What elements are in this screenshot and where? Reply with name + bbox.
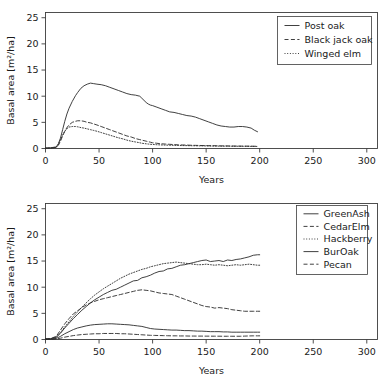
y-axis-label: Basal area [m²/ha] xyxy=(5,227,16,316)
legend-bottom: GreenAshCedarElmHackberryBurOakPecan xyxy=(297,206,373,275)
series-line-buroak xyxy=(46,324,260,339)
y-tick-label: 25 xyxy=(26,12,38,23)
legend-label-hackberry: Hackberry xyxy=(324,233,373,244)
legend-label-buroak: BurOak xyxy=(324,246,360,257)
chart-panel-bottom: 0501001502002503000510152025YearsBasal a… xyxy=(0,191,391,382)
x-tick-label: 200 xyxy=(251,346,269,357)
y-tick-label: 0 xyxy=(32,143,38,154)
legend-label-pecan: Pecan xyxy=(324,259,352,270)
series-line-pecan xyxy=(46,333,260,339)
y-tick-label: 20 xyxy=(26,229,38,240)
y-tick-label: 10 xyxy=(26,282,38,293)
y-tick-label: 25 xyxy=(26,203,38,214)
x-tick-label: 300 xyxy=(358,346,376,357)
chart-svg-bottom: 0501001502002503000510152025YearsBasal a… xyxy=(0,191,391,382)
y-tick-label: 5 xyxy=(32,117,38,128)
x-tick-label: 0 xyxy=(42,155,48,166)
y-axis-label: Basal area [m²/ha] xyxy=(5,36,16,125)
x-axis-label: Years xyxy=(198,365,224,376)
series-line-post-oak xyxy=(46,83,258,148)
y-tick-label: 20 xyxy=(26,38,38,49)
series-line-winged-elm xyxy=(46,127,258,149)
legend-label-winged-elm: Winged elm xyxy=(305,48,362,59)
y-tick-label: 15 xyxy=(26,64,38,75)
x-tick-label: 150 xyxy=(197,155,215,166)
x-tick-label: 250 xyxy=(304,346,322,357)
legend-label-greenash: GreenAsh xyxy=(324,208,370,219)
y-tick-label: 10 xyxy=(26,91,38,102)
chart-svg-top: 0501001502002503000510152025YearsBasal a… xyxy=(0,0,391,191)
chart-panel-top: 0501001502002503000510152025YearsBasal a… xyxy=(0,0,391,191)
x-tick-label: 300 xyxy=(358,155,376,166)
x-axis-label: Years xyxy=(198,174,224,185)
legend-label-post-oak: Post oak xyxy=(305,20,346,31)
legend-label-cedarelm: CedarElm xyxy=(324,221,370,232)
x-tick-label: 50 xyxy=(93,155,105,166)
y-tick-label: 5 xyxy=(32,308,38,319)
series-line-greenash xyxy=(46,255,260,339)
x-tick-label: 0 xyxy=(42,346,48,357)
x-tick-label: 100 xyxy=(144,155,162,166)
y-tick-label: 15 xyxy=(26,255,38,266)
x-tick-label: 250 xyxy=(304,155,322,166)
x-tick-label: 150 xyxy=(197,346,215,357)
x-tick-label: 50 xyxy=(93,346,105,357)
legend-label-black-jack-oak: Black jack oak xyxy=(305,34,374,45)
basal-area-figure: 0501001502002503000510152025YearsBasal a… xyxy=(0,0,391,382)
x-tick-label: 100 xyxy=(144,346,162,357)
x-tick-label: 200 xyxy=(251,155,269,166)
legend-top: Post oakBlack jack oakWinged elm xyxy=(278,17,374,65)
y-tick-label: 0 xyxy=(32,334,38,345)
